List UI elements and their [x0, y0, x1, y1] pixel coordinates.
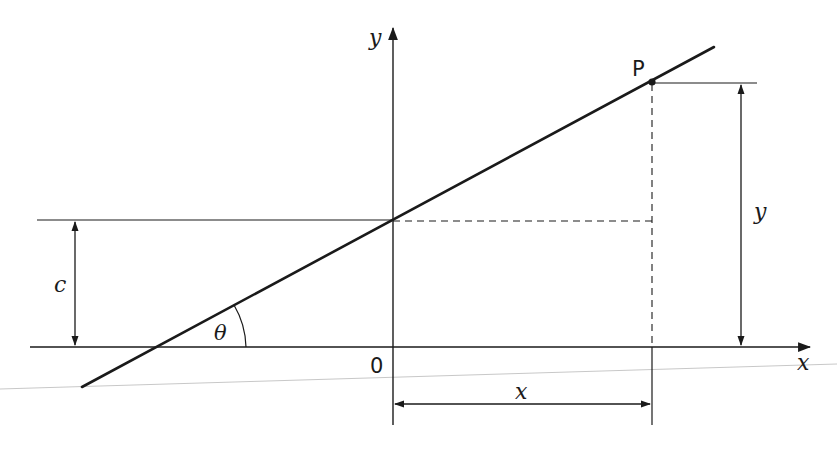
angle-theta-arc [234, 305, 246, 347]
line-graph-diagram: y x 0 P c y x θ [0, 0, 837, 449]
intercept-c-label: c [54, 272, 66, 297]
faint-background-line [0, 364, 837, 389]
point-p-label: P [632, 57, 645, 81]
vertical-distance-y-label: y [753, 199, 767, 224]
horizontal-distance-x-label: x [515, 379, 528, 404]
straight-line [82, 47, 714, 387]
angle-theta-label: θ [214, 321, 227, 345]
x-axis-label: x [797, 350, 810, 375]
y-axis-label: y [368, 25, 382, 50]
point-p-dot [648, 78, 655, 85]
origin-label: 0 [370, 354, 383, 378]
